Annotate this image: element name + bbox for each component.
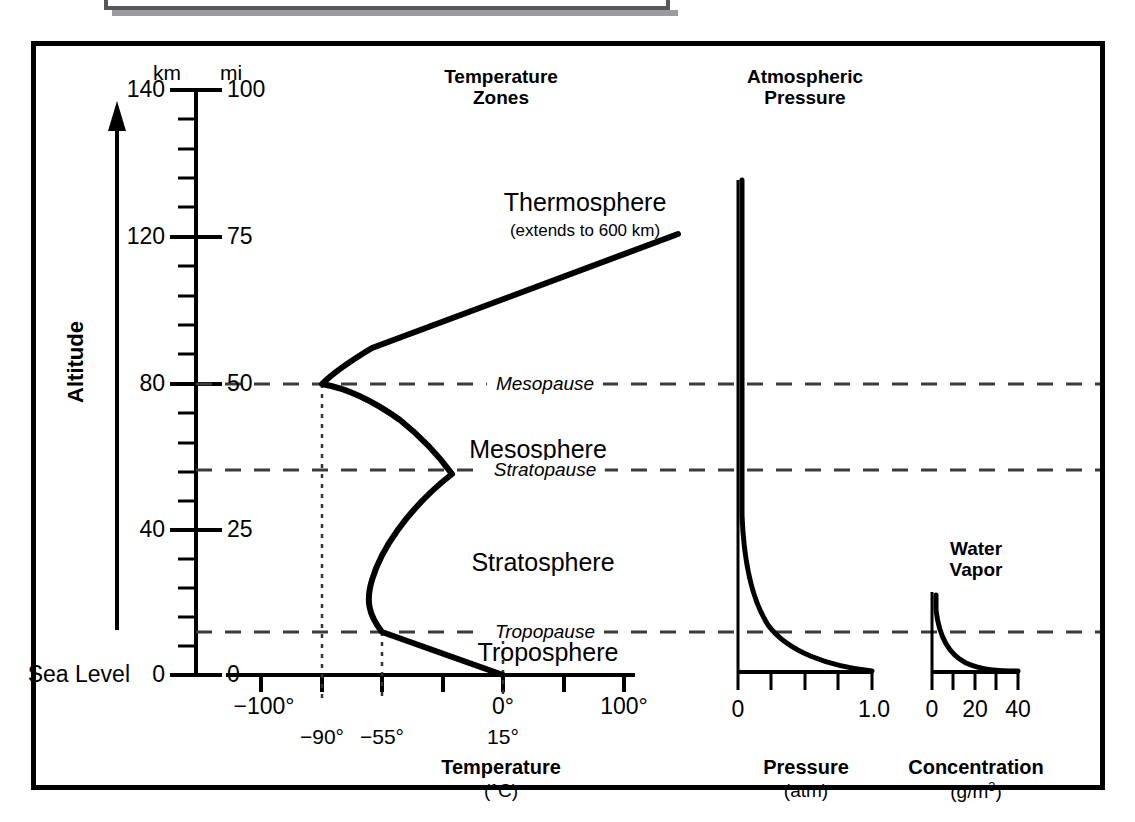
mi-tick-100: 100	[227, 78, 265, 101]
km-tick-140: 140	[127, 78, 165, 101]
altitude-arrow-icon	[108, 101, 126, 630]
temp-tick-minus100: −100°	[233, 695, 294, 718]
watervapor-caption-unit: (g/m3)	[950, 781, 1002, 801]
watervapor-unit-pre: (g/m	[950, 781, 988, 802]
pressure-heading-line2: Pressure	[747, 87, 863, 108]
temperature-caption: Temperature	[441, 755, 561, 779]
water-vapor-heading-line2: Vapor	[950, 559, 1003, 580]
watervapor-tick-40: 40	[1005, 698, 1031, 721]
zone-note-thermosphere: (extends to 600 km)	[510, 222, 660, 239]
temp-tick-0: 0°	[492, 695, 514, 718]
pause-reference-lines	[196, 384, 1100, 632]
zone-label-stratosphere: Stratosphere	[471, 550, 614, 575]
km-tick-80: 80	[139, 372, 165, 395]
pressure-caption: Pressure	[763, 755, 849, 779]
boundary-label-stratopause: Stratopause	[485, 460, 605, 479]
temperature-zones-heading-line2: Zones	[444, 87, 558, 108]
temperature-axis	[226, 675, 635, 692]
pressure-tick-1: 1.0	[858, 698, 890, 721]
km-tick-120: 120	[127, 225, 165, 248]
zone-label-troposphere: Troposphere	[478, 640, 619, 665]
sea-level-label: Sea Level	[28, 663, 130, 686]
pressure-axis	[738, 180, 872, 690]
water-vapor-heading: Water Vapor	[950, 538, 1003, 581]
pressure-caption-unit: (atm)	[784, 781, 828, 800]
watervapor-tick-20: 20	[962, 698, 988, 721]
watervapor-unit-post: )	[995, 781, 1001, 802]
temp-annotation-minus55: −55°	[360, 726, 404, 747]
mi-tick-25: 25	[227, 518, 253, 541]
pressure-profile-curve	[742, 180, 872, 671]
temp-annotation-15: 15°	[487, 726, 519, 747]
temperature-zones-heading: Temperature Zones	[444, 66, 558, 109]
temp-annotation-minus90: −90°	[300, 726, 344, 747]
temp-tick-100: 100°	[600, 695, 648, 718]
pressure-tick-0: 0	[732, 698, 745, 721]
zone-label-thermosphere: Thermosphere	[504, 190, 667, 215]
water-vapor-heading-line1: Water	[950, 538, 1003, 559]
boundary-label-mesopause: Mesopause	[487, 374, 603, 393]
km-tick-40: 40	[139, 518, 165, 541]
temperature-caption-unit: (°C)	[484, 781, 518, 800]
watervapor-tick-0: 0	[926, 698, 939, 721]
altitude-axis-label: Altitude	[63, 321, 89, 403]
atmospheric-pressure-heading: Atmospheric Pressure	[747, 66, 863, 109]
mi-tick-50: 50	[227, 372, 253, 395]
watervapor-caption: Concentration	[908, 755, 1044, 779]
km-tick-0: 0	[152, 663, 165, 686]
boundary-label-tropopause: Tropopause	[486, 622, 604, 641]
mi-tick-75: 75	[227, 225, 253, 248]
mi-tick-0: 0	[227, 663, 240, 686]
pressure-heading-line1: Atmospheric	[747, 66, 863, 87]
temperature-zones-heading-line1: Temperature	[444, 66, 558, 87]
watervapor-profile-curve	[936, 595, 1018, 671]
